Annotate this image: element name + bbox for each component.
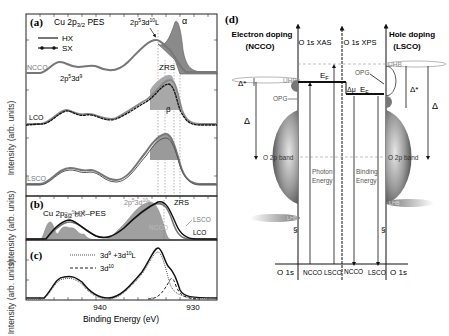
o2p-left: O 2p band bbox=[263, 154, 294, 162]
panel-c-label: (c) bbox=[30, 249, 43, 262]
lco-sx-curve bbox=[26, 84, 217, 125]
lsco-bottom-1: LSCO bbox=[324, 269, 342, 276]
o1s-right: O 1s bbox=[390, 268, 407, 277]
y-axis-labels: Intensity (arb. units) Intensity (arb. u… bbox=[6, 101, 16, 335]
col-xas: O 1s XAS bbox=[299, 38, 332, 47]
dstar-left: Δ* bbox=[238, 79, 246, 88]
ylabel-c: Intensity (arb. units) bbox=[6, 260, 16, 335]
opg-right: OPG bbox=[355, 69, 369, 76]
ncco-bottom-2: NCCO bbox=[344, 268, 363, 275]
label-lsco-b: LSCO bbox=[193, 216, 211, 223]
panel-d: (d) Electron doping (NCCO) Hole doping (… bbox=[225, 13, 446, 280]
ann-beta: β bbox=[166, 105, 171, 114]
label-ncco-b: NCCO bbox=[149, 224, 168, 231]
legend-3d10: 3d10 bbox=[100, 263, 114, 273]
col-xps: O 1s XPS bbox=[344, 38, 377, 47]
ncco-area bbox=[26, 202, 172, 240]
ef-right: EF bbox=[360, 85, 369, 95]
panel-a: (a) Cu 2p3/2 PES HX SX NCCO LCO LSCO 2p5… bbox=[26, 14, 217, 196]
legend-sx: SX bbox=[62, 44, 73, 53]
label-ncco: NCCO bbox=[27, 64, 48, 71]
o2p-right: O 2p band bbox=[388, 154, 419, 162]
ylabel-b: Intensity (arb. units) bbox=[6, 191, 16, 266]
label-lsco: LSCO bbox=[27, 175, 47, 182]
lsco-bottom-2: LSCO bbox=[368, 269, 386, 276]
lhb-right-label: LHB bbox=[389, 200, 400, 206]
panel-b: (b) Cu 2p3/2 HX–PES 2p53d10L ZRS 2p53d9 … bbox=[26, 196, 217, 240]
tick-930: 930 bbox=[186, 303, 200, 312]
label-lco-b: LCO bbox=[193, 229, 206, 236]
xlabel: Binding Energy (eV) bbox=[83, 314, 159, 324]
opg-left: OPG bbox=[273, 95, 287, 102]
binding-energy-1: Binding bbox=[356, 168, 378, 176]
o1s-left: O 1s bbox=[277, 268, 294, 277]
dstar-right: Δ* bbox=[410, 85, 418, 94]
binding-energy-2: Energy bbox=[356, 177, 377, 185]
panel-b-label: (b) bbox=[30, 198, 44, 211]
label-lco: LCO bbox=[29, 114, 44, 121]
ann-sat-b: 2p53d9 bbox=[64, 209, 85, 219]
tick-940: 940 bbox=[93, 303, 107, 312]
panel-d-label: (d) bbox=[225, 13, 239, 26]
delta-right: Δ bbox=[432, 101, 438, 111]
legend-hx: HX bbox=[62, 34, 74, 43]
left-header-2: (NCCO) bbox=[246, 42, 275, 51]
ylabel-a: Intensity (arb. units) bbox=[6, 101, 16, 176]
ann-zrs-b: ZRS bbox=[174, 198, 189, 207]
panel-c: (c) 3d9 +3d10L 3d10 940 930 Binding Ener… bbox=[26, 240, 217, 324]
break-right: § bbox=[381, 225, 385, 234]
ncco-bottom-1: NCCO bbox=[303, 269, 322, 276]
figure: Intensity (arb. units) Intensity (arb. u… bbox=[0, 0, 449, 336]
lsco-hx-curve bbox=[26, 134, 217, 184]
ann-sat-a: 2p53d9 bbox=[60, 73, 82, 83]
delta-mu: Δμ bbox=[347, 86, 356, 94]
ef-left: EF bbox=[320, 71, 329, 81]
panel-a-label: (a) bbox=[30, 16, 43, 29]
right-header-2: (LSCO) bbox=[393, 42, 421, 51]
ann-zrs-a: ZRS bbox=[159, 63, 175, 72]
photon-energy-2: Energy bbox=[312, 177, 333, 185]
panel-a-title: Cu 2p3/2 PES bbox=[54, 17, 105, 28]
legend-3d9-3d10L: 3d9 +3d10L bbox=[100, 250, 136, 260]
photon-energy-1: Photon bbox=[312, 168, 333, 175]
break-left: § bbox=[293, 225, 297, 234]
ann-main-a: 2p53d10L bbox=[130, 17, 159, 27]
right-header-1: Hole doping bbox=[389, 30, 435, 39]
delta-left: Δ bbox=[244, 116, 250, 126]
left-header-1: Electron doping bbox=[232, 30, 293, 39]
lhb-left-label: LHB bbox=[287, 215, 298, 221]
ann-alpha: α bbox=[182, 16, 187, 26]
ann-main-b: 2p53d10L bbox=[124, 197, 152, 207]
3d10-curve bbox=[148, 278, 200, 299]
